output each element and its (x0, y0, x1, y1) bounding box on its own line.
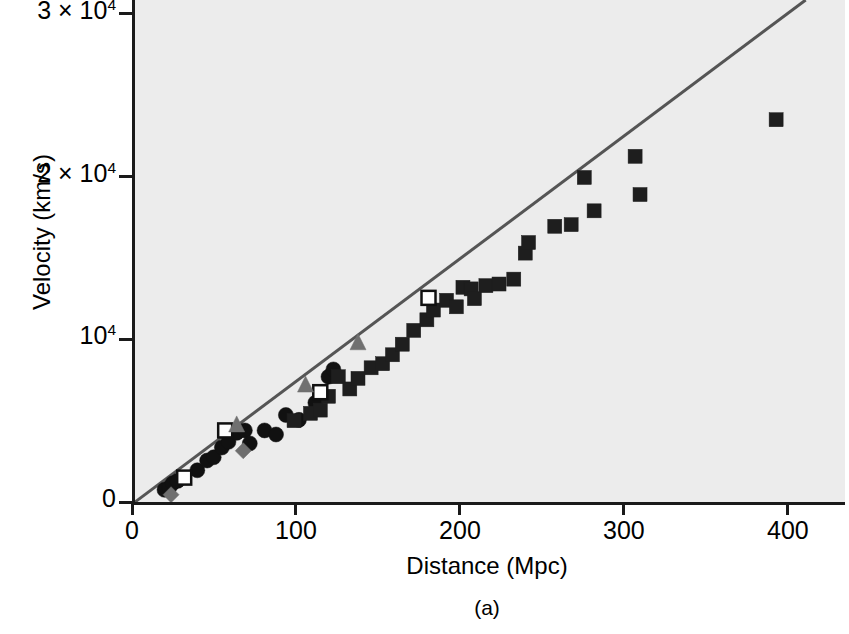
x-tick-label: 400 (718, 516, 849, 544)
data-point-filled-square (351, 371, 365, 385)
x-tick-label: 100 (226, 516, 366, 544)
data-point-filled-square (522, 236, 536, 250)
data-point-filled-square (492, 277, 506, 291)
y-tick-label: 2 × 104 (0, 161, 116, 186)
data-point-filled-square (769, 113, 783, 127)
data-point-filled-square (331, 370, 345, 384)
x-tick-label: 200 (390, 516, 530, 544)
y-tick-label: 104 (0, 323, 116, 348)
data-point-filled-square (479, 279, 493, 293)
data-point-filled-square (313, 403, 327, 417)
data-point-filled-circle (269, 427, 284, 442)
y-tick-mark (119, 175, 132, 178)
data-point-filled-square (577, 170, 591, 184)
x-tick-label: 300 (554, 516, 694, 544)
data-point-filled-square (633, 188, 647, 202)
x-tick-label: 0 (62, 516, 202, 544)
data-point-filled-square (548, 219, 562, 233)
data-markers (157, 113, 783, 502)
panel-caption: (a) (132, 596, 842, 620)
data-point-gray-triangle (350, 334, 366, 350)
x-axis-label: Distance (Mpc) (132, 552, 842, 580)
data-point-filled-square (287, 414, 301, 428)
data-point-filled-square (628, 149, 642, 163)
data-point-open-square (313, 385, 327, 399)
data-point-filled-square (587, 204, 601, 218)
data-point-filled-square (449, 300, 463, 314)
y-tick-label: 3 × 104 (0, 0, 116, 23)
y-tick-mark (119, 338, 132, 341)
data-point-filled-square (407, 323, 421, 337)
plot-area (132, 0, 845, 505)
data-point-filled-square (507, 272, 521, 286)
data-point-open-square (177, 471, 191, 485)
y-tick-mark (119, 12, 132, 15)
data-point-filled-square (564, 218, 578, 232)
data-point-filled-square (395, 337, 409, 351)
scatter-plot-canvas (135, 0, 845, 502)
data-point-filled-square (467, 292, 481, 306)
data-point-open-square (422, 291, 436, 305)
y-tick-label: 0 (0, 486, 116, 511)
